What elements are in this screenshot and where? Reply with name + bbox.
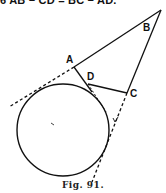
center-mark [51,123,54,125]
label-C: C [130,89,137,99]
tangent-extension-C [92,93,127,182]
tangent-extension-A [9,67,74,107]
label-B: B [143,23,150,33]
tick-mark [113,118,115,122]
label-D: D [87,72,94,82]
side-AB [74,10,161,67]
figure-caption: Fig. 91. [0,180,166,190]
inscribed-circle [17,84,109,176]
geometry-figure [0,0,166,193]
tangent-extension-D [88,84,106,112]
side-CD [88,84,127,93]
label-A: A [66,55,73,65]
